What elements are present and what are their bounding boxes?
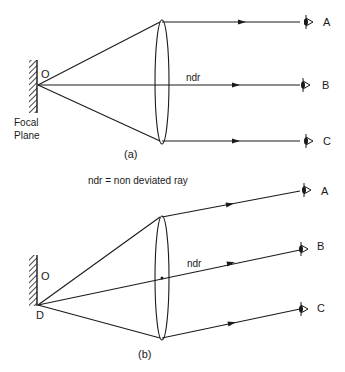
eye-icon [301,78,310,92]
observer-a-label-b: A [321,185,329,197]
point-o-label-b: O [41,270,50,282]
focal-plane-b [29,255,37,306]
arrow-icon [226,260,235,267]
eye-icon [299,242,308,256]
focal-plane-a [29,60,37,113]
arrow-icon [232,83,240,88]
point-o-label: O [41,68,50,80]
observer-c-label-b: C [317,302,325,314]
eye-icon [304,15,313,29]
ray-a-top-incident [38,22,160,85]
arrow-icon [238,20,246,25]
focal-plane-label: Focal [14,117,38,128]
panel-b: O D ndr A [29,183,329,360]
observer-c-label: C [323,135,331,147]
observer-a-label: A [323,16,331,28]
eye-icon [302,183,311,197]
ndr-label-a: ndr [186,72,201,83]
observer-b-label: B [322,79,329,91]
eye-icon [299,302,308,316]
ray-a-bottom-incident [38,85,160,141]
arrow-icon [232,139,240,144]
focal-plane-label-2: Plane [14,130,40,141]
caption-a: (a) [124,148,137,160]
ray-b-bottom-incident [38,305,160,338]
observer-b-label-b: B [317,240,324,252]
optics-diagram: O Focal Plane ndr [0,0,345,372]
ndr-label-b: ndr [187,258,202,269]
lens-a [155,20,169,144]
eye-icon [304,134,313,148]
panel-a: O Focal Plane ndr [14,15,331,160]
caption-b: (b) [138,348,151,360]
legend-text: ndr = non deviated ray [88,175,188,186]
point-d-label: D [36,309,44,321]
lens-center-dot [161,277,164,280]
arrow-icon [226,201,235,207]
